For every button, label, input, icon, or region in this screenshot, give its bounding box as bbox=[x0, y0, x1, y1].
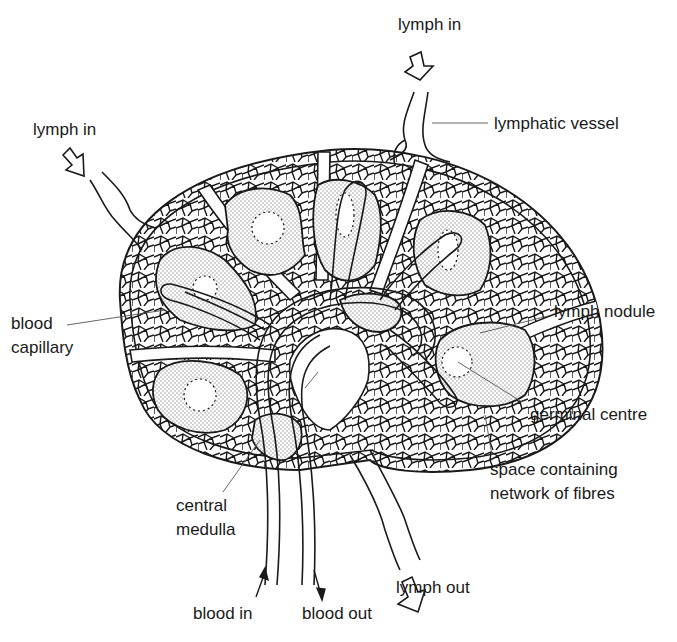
label-lymph-in-left: lymph in bbox=[33, 119, 96, 140]
label-blood-capillary-2: capillary bbox=[11, 337, 73, 358]
lymph-in-top-arrow bbox=[405, 52, 433, 80]
label-central-medulla-1: central bbox=[176, 495, 227, 516]
label-space-network-1: space containing bbox=[490, 459, 618, 480]
label-blood-out: blood out bbox=[302, 603, 372, 624]
label-lymphatic-vessel: lymphatic vessel bbox=[494, 113, 619, 134]
label-space-network-2: network of fibres bbox=[490, 483, 615, 504]
label-lymph-nodule: lymph nodule bbox=[554, 301, 655, 322]
label-central-medulla-2: medulla bbox=[176, 519, 236, 540]
lymph-in-left-arrow bbox=[63, 148, 84, 176]
lymph-node-diagram: lymph in lymphatic vessel lymph in blood… bbox=[0, 0, 677, 642]
label-lymph-in-top: lymph in bbox=[398, 14, 461, 35]
label-germinal-centre: germinal centre bbox=[530, 404, 647, 425]
label-blood-in: blood in bbox=[193, 603, 253, 624]
label-lymph-out: lymph out bbox=[396, 577, 470, 598]
label-blood-capillary-1: blood bbox=[11, 313, 53, 334]
